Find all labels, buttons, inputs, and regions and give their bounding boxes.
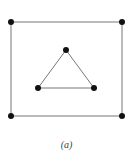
triangle-edge — [66, 50, 94, 88]
triangle-node — [63, 47, 69, 53]
square-node — [8, 113, 14, 119]
triangle-node — [35, 85, 41, 91]
figure-caption: (a) — [0, 139, 133, 150]
square-node — [119, 19, 125, 25]
inner-triangle — [35, 47, 97, 91]
triangle-edge — [38, 50, 66, 88]
square-node — [8, 19, 14, 25]
graph-figure — [0, 0, 133, 156]
outer-square — [8, 19, 125, 119]
square-node — [119, 113, 125, 119]
triangle-node — [91, 85, 97, 91]
